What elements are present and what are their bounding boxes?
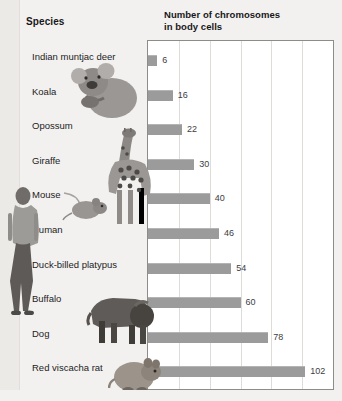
bar-value-label: 16 [178, 90, 188, 101]
bar [148, 124, 182, 135]
bottom-margin [0, 390, 342, 401]
chart-page: Species Number of chromosomes in body ce… [0, 0, 342, 401]
chromosomes-column-header: Number of chromosomes in body cells [164, 9, 314, 32]
chromosomes-header-line1: Number of chromosomes [164, 9, 280, 20]
species-label: Mouse [32, 189, 61, 200]
gridline-80 [271, 41, 272, 389]
bar-value-label: 60 [246, 297, 256, 308]
bar-value-label: 40 [215, 193, 225, 204]
bar-value-label: 46 [224, 228, 234, 239]
bar-chart-plot-area: 61622304046546078102 [147, 40, 334, 390]
species-label: Indian muntjac deer [32, 51, 115, 62]
bar [148, 90, 173, 101]
species-label: Opossum [32, 120, 73, 131]
species-label: Human [32, 224, 63, 235]
species-column-header: Species [26, 16, 65, 27]
species-label: Duck-billed platypus [32, 259, 117, 270]
gridline-100 [302, 41, 303, 389]
bar [148, 263, 231, 274]
bar [148, 366, 305, 377]
species-label: Dog [32, 328, 49, 339]
species-label: Red viscacha rat [32, 362, 103, 373]
bar [148, 55, 157, 66]
bar [148, 193, 210, 204]
bar [148, 159, 194, 170]
species-label: Koala [32, 86, 56, 97]
bar-value-label: 102 [310, 366, 325, 377]
bar-value-label: 78 [273, 332, 283, 343]
species-label: Giraffe [32, 155, 60, 166]
bar-value-label: 22 [187, 124, 197, 135]
bar [148, 297, 241, 308]
bar [148, 332, 268, 343]
bar-value-label: 54 [236, 263, 246, 274]
bar [148, 228, 219, 239]
chromosomes-header-line2: in body cells [164, 21, 222, 32]
species-label-column: Indian muntjac deerKoalaOpossumGiraffeMo… [0, 40, 147, 390]
bar-value-label: 30 [199, 159, 209, 170]
species-label: Buffalo [32, 293, 61, 304]
bar-value-label: 6 [162, 55, 167, 66]
